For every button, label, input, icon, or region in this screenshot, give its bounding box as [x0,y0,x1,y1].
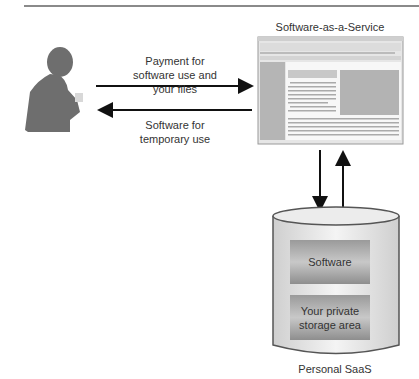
label-line: Payment for [110,54,240,68]
person-icon [25,47,83,132]
label-line: storage area [290,318,370,332]
storage-box-label: Your private storage area [290,304,370,332]
software-temp-label: Software for temporary use [110,118,240,146]
saas-title: Software-as-a-Service [250,20,410,34]
label-line: temporary use [110,132,240,146]
label-line: Your private [290,304,370,318]
payment-label: Payment for software use and your files [110,54,240,96]
label-line: software use and [110,68,240,82]
app-window-icon [258,37,403,144]
software-box-label: Software [290,255,370,269]
label-line: your files [110,82,240,96]
label-line: Software for [110,118,240,132]
personal-saas-label: Personal SaaS [260,362,410,376]
